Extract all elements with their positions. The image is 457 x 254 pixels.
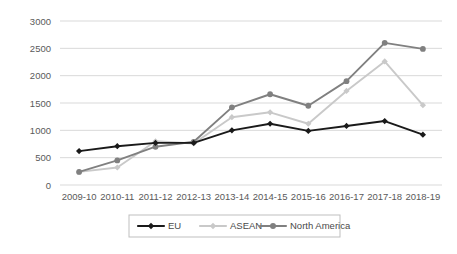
series-line [79,121,423,151]
data-point-marker [420,46,426,52]
data-point-marker [267,91,273,97]
y-axis-tick-label: 2000 [30,70,51,81]
chart-legend: EUASEANNorth America [129,215,351,237]
line-chart: 0500100015002000250030002009-102010-1120… [0,0,457,254]
data-point-marker [382,118,388,124]
series-line [79,43,423,172]
data-point-marker [229,127,235,133]
x-axis-tick-label: 2015-16 [291,191,326,202]
y-axis-tick-label: 1000 [30,125,51,136]
data-point-marker [229,104,235,110]
y-axis-tick-label: 1500 [30,98,51,109]
data-point-marker [76,148,82,154]
x-axis-labels-group: 2009-102010-112011-122012-132013-142014-… [62,191,441,202]
y-axis-tick-label: 3000 [30,16,51,27]
x-axis-tick-label: 2012-13 [176,191,211,202]
legend-label: ASEAN [230,220,262,231]
data-point-marker [343,123,349,129]
data-point-marker [382,40,388,46]
series-eu [76,118,426,154]
data-point-marker [114,158,120,164]
data-point-marker [114,143,120,149]
data-point-marker [420,132,426,138]
x-axis-tick-label: 2017-18 [367,191,402,202]
data-point-marker [267,109,273,115]
legend-label: North America [290,220,351,231]
chart-canvas: 0500100015002000250030002009-102010-1120… [0,0,457,254]
x-axis-tick-label: 2011-12 [138,191,172,202]
x-axis-tick-label: 2018-19 [405,191,440,202]
data-point-marker [344,78,350,84]
y-axis-tick-label: 2500 [30,43,51,54]
data-point-marker [305,128,311,134]
data-point-marker [76,169,82,175]
data-point-marker [305,103,311,109]
x-axis-tick-label: 2009-10 [62,191,97,202]
y-axis-tick-label: 0 [46,180,51,191]
data-point-marker [267,121,273,127]
gridlines-group: 050010001500200025003000 [30,16,442,191]
x-axis-tick-label: 2013-14 [214,191,249,202]
x-axis-tick-label: 2010-11 [100,191,134,202]
x-axis-tick-label: 2016-17 [329,191,364,202]
series-north-america [76,40,426,175]
y-axis-tick-label: 500 [35,152,51,163]
x-axis-tick-label: 2014-15 [253,191,288,202]
legend-label: EU [168,220,181,231]
legend-swatch-marker [270,223,276,229]
